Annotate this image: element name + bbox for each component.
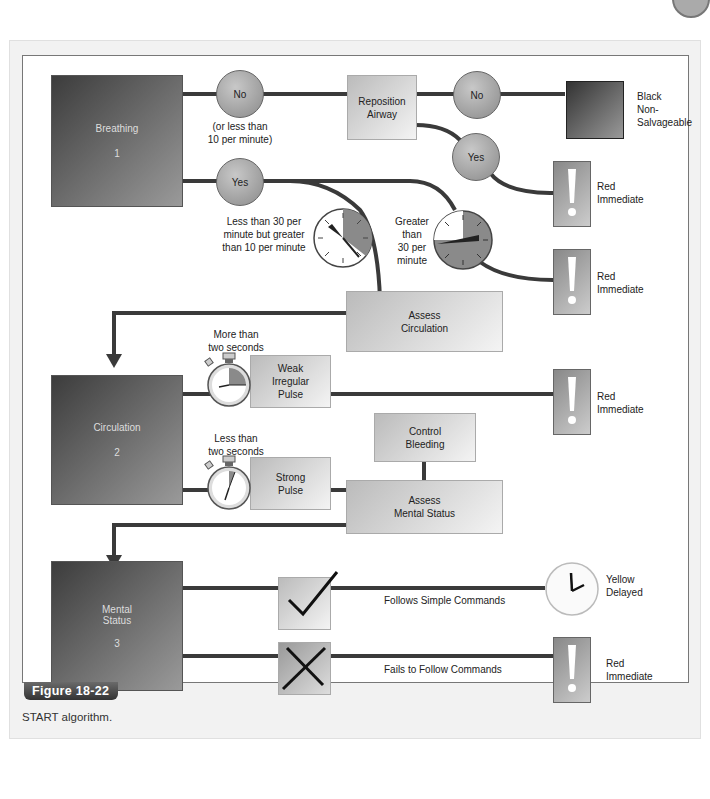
label-line: Immediate [597, 403, 644, 416]
label-line: Non- [637, 103, 692, 116]
decision-yes-breathing: Yes [216, 158, 264, 206]
mental-status-label-1: Mental [102, 604, 132, 615]
label-line: Yellow [606, 573, 643, 586]
label-line: Immediate [597, 193, 644, 206]
exclamation-icon [565, 257, 579, 307]
box-line: Bleeding [406, 438, 445, 451]
box-line: Weak [278, 362, 303, 375]
fails-commands-label: Fails to Follow Commands [384, 663, 502, 676]
breathing-number: 1 [114, 148, 120, 159]
red-immediate-icon-2 [553, 249, 591, 315]
strong-pulse-box: Strong Pulse [250, 457, 331, 510]
no-breathing-note: (or less than 10 per minute) [195, 120, 285, 146]
clock-low-rate-icon [312, 207, 374, 269]
box-line: Assess [408, 309, 440, 322]
check-box-icon [278, 577, 331, 630]
label-line: Delayed [606, 586, 643, 599]
reposition-airway-box: Reposition Airway [347, 75, 417, 140]
follows-commands-label: Follows Simple Commands [384, 594, 505, 607]
box-line: Pulse [278, 484, 303, 497]
note-line: (or less than [195, 120, 285, 133]
label-line: Immediate [597, 283, 644, 296]
label-line: Black [637, 90, 692, 103]
decision-no-breathing: No [216, 70, 264, 118]
box-line: Reposition [358, 95, 405, 108]
note-line: 10 per minute) [195, 133, 285, 146]
decision-yes-reposition: Yes [452, 133, 500, 181]
control-bleeding-box: Control Bleeding [374, 413, 476, 462]
label-line: Less than [200, 432, 272, 445]
label-line: Salvageable [637, 116, 692, 129]
label-line: Red [597, 180, 644, 193]
label-line: Red [597, 270, 644, 283]
circulation-number: 2 [114, 447, 120, 458]
weak-pulse-box: Weak Irregular Pulse [250, 355, 331, 408]
label-line: Less than 30 per [215, 215, 313, 228]
box-line: Circulation [401, 322, 448, 335]
label-line: Immediate [606, 670, 653, 683]
label-line: than [390, 228, 434, 241]
red-immediate-label-4: Red Immediate [606, 657, 653, 683]
decision-label: Yes [468, 152, 484, 163]
label-line: minute but greater [215, 228, 313, 241]
red-immediate-icon-1 [553, 161, 591, 227]
label-line: Greater [390, 215, 434, 228]
box-line: Mental Status [394, 507, 455, 520]
decision-label: No [471, 90, 484, 101]
stopwatch-fast-icon [203, 455, 253, 511]
cap-refill-more-label: More than two seconds [200, 328, 272, 354]
label-line: Red [597, 390, 644, 403]
figure-number-tab: Figure 18-22 [24, 682, 118, 700]
black-outcome-square [566, 81, 624, 139]
label-line: Red [606, 657, 653, 670]
figure-caption: START algorithm. [22, 711, 112, 723]
exclamation-icon [565, 169, 579, 219]
assess-circulation-box: Assess Circulation [346, 291, 503, 352]
x-box-icon [278, 642, 331, 695]
low-rate-label: Less than 30 per minute but greater than… [215, 215, 313, 254]
box-line: Airway [367, 108, 397, 121]
yellow-delayed-label: Yellow Delayed [606, 573, 643, 599]
box-line: Control [409, 425, 441, 438]
high-rate-label: Greater than 30 per minute [390, 215, 434, 267]
black-outcome-label: Black Non- Salvageable [637, 90, 692, 129]
red-immediate-label-1: Red Immediate [597, 180, 644, 206]
circulation-block: Circulation 2 [51, 375, 183, 505]
mental-status-number: 3 [114, 638, 120, 649]
exclamation-icon [565, 645, 579, 695]
label-line: than 10 per minute [215, 241, 313, 254]
decision-label: Yes [232, 177, 248, 188]
label-line: More than [200, 328, 272, 341]
red-immediate-icon-4 [553, 637, 591, 703]
box-line: Assess [408, 494, 440, 507]
stopwatch-slow-icon [203, 352, 253, 408]
x-mark-icon [279, 643, 330, 694]
red-immediate-icon-3 [553, 369, 591, 435]
box-line: Pulse [278, 388, 303, 401]
checkmark-icon [285, 566, 345, 622]
red-immediate-label-2: Red Immediate [597, 270, 644, 296]
mental-status-block: Mental Status 3 [51, 561, 183, 691]
label-line: 30 per [390, 241, 434, 254]
circulation-label: Circulation [93, 422, 140, 433]
breathing-label: Breathing [96, 123, 139, 134]
decision-no-reposition: No [453, 71, 501, 119]
breathing-block: Breathing 1 [51, 75, 183, 207]
clock-high-rate-icon [432, 209, 494, 271]
label-line: minute [390, 254, 434, 267]
box-line: Irregular [272, 375, 309, 388]
mental-status-label-2: Status [103, 615, 131, 626]
assess-mental-status-box: Assess Mental Status [346, 480, 503, 534]
box-line: Strong [276, 471, 305, 484]
exclamation-icon [565, 377, 579, 427]
yellow-delayed-clock-icon [544, 561, 600, 617]
red-immediate-label-3: Red Immediate [597, 390, 644, 416]
decision-label: No [234, 89, 247, 100]
